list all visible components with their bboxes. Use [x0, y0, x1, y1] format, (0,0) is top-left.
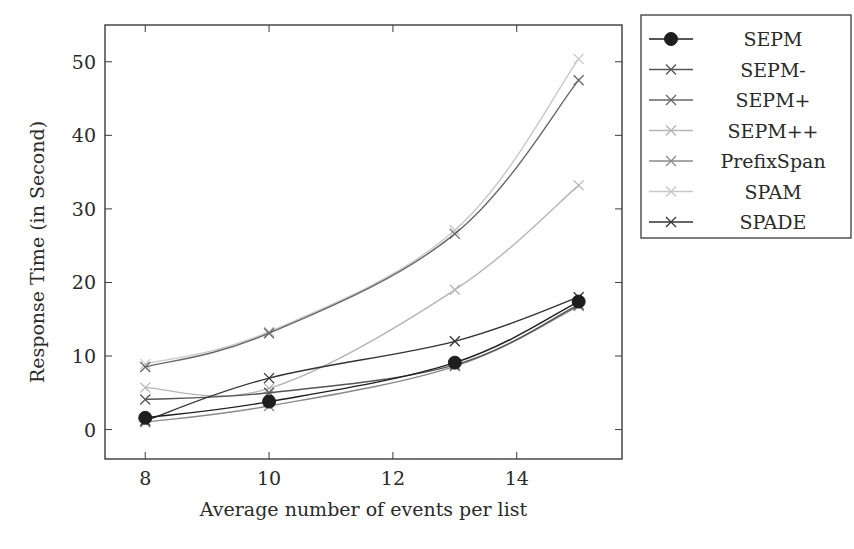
x-axis-title: Average number of events per list: [199, 498, 528, 520]
legend-label: SEPM-: [740, 59, 806, 81]
series-prefixspan: [140, 301, 583, 427]
legend-label: SPAM: [744, 181, 801, 203]
legend-label: PrefixSpan: [720, 150, 825, 172]
series-x-marker-icon: [450, 285, 460, 295]
x-tick-label: 8: [139, 467, 151, 489]
x-tick-label: 12: [381, 467, 405, 489]
series-sepmplus: [140, 75, 583, 372]
series-line: [145, 297, 578, 421]
y-tick-label: 50: [72, 51, 96, 73]
y-axis-title: Response Time (in Second): [26, 121, 48, 383]
legend-circle-marker-icon: [665, 33, 678, 46]
series-spade: [140, 292, 583, 426]
series-x-marker-icon: [574, 54, 584, 64]
legend-label: SEPM++: [728, 120, 819, 142]
series-layer: [139, 54, 585, 427]
series-circle-marker-icon: [139, 411, 152, 424]
series-line: [145, 59, 578, 364]
series-x-marker-icon: [450, 336, 460, 346]
axes: 810121401020304050: [72, 25, 622, 489]
series-line: [145, 306, 578, 422]
y-tick-label: 40: [72, 124, 96, 146]
series-x-marker-icon: [264, 373, 274, 383]
series-sepmplusplus: [140, 180, 583, 396]
series-x-marker-icon: [574, 75, 584, 85]
legend-label: SEPM: [743, 28, 802, 50]
series-line: [145, 80, 578, 367]
y-tick-label: 10: [72, 345, 96, 367]
y-tick-label: 20: [72, 271, 96, 293]
x-tick-label: 14: [505, 467, 529, 489]
y-tick-label: 30: [72, 198, 96, 220]
line-chart: 810121401020304050 Average number of eve…: [0, 0, 854, 549]
plot-frame: [105, 25, 622, 459]
series-circle-marker-icon: [572, 295, 585, 308]
legend: SEPMSEPM-SEPM+SEPM++PrefixSpanSPAMSPADE: [641, 15, 851, 238]
y-tick-label: 0: [84, 419, 96, 441]
x-tick-label: 10: [257, 467, 281, 489]
series-x-marker-icon: [574, 180, 584, 190]
legend-label: SPADE: [740, 211, 807, 233]
legend-label: SEPM+: [735, 89, 810, 111]
series-circle-marker-icon: [448, 356, 461, 369]
series-circle-marker-icon: [263, 395, 276, 408]
